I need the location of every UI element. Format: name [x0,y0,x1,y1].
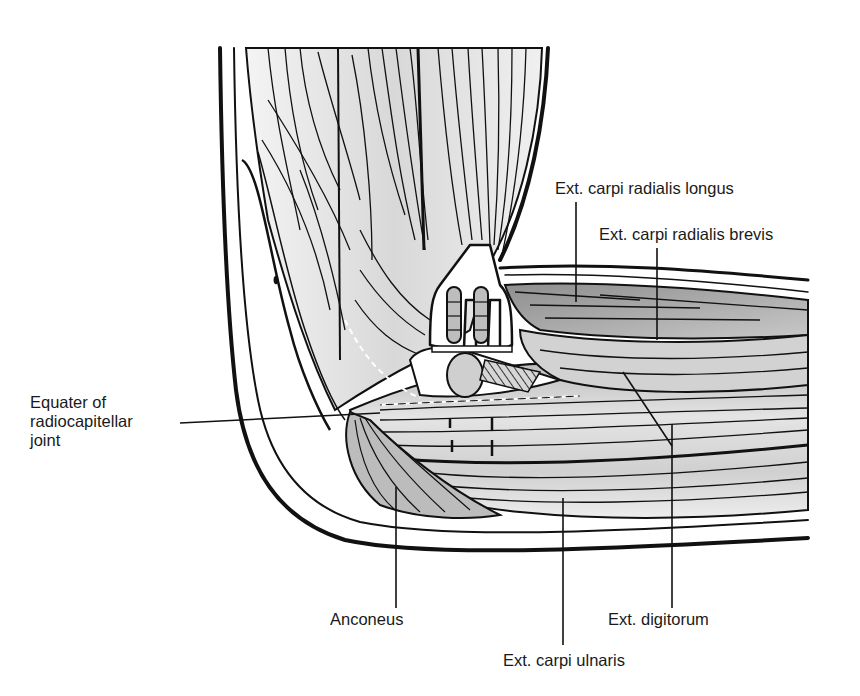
label-ext-carpi-radialis-brevis: Ext. carpi radialis brevis [599,225,773,244]
label-ext-carpi-radialis-longus: Ext. carpi radialis longus [555,179,734,198]
label-equator-radiocapitellar-joint: Equater of radiocapitellar joint [30,393,133,450]
label-anconeus: Anconeus [330,610,403,629]
elbow-illustration [0,0,860,696]
label-equator-line-3: joint [30,431,133,450]
upper-arm-muscles [246,48,542,410]
label-ext-digitorum: Ext. digitorum [608,610,709,629]
label-equator-line-1: Equater of [30,393,133,412]
label-equator-line-2: radiocapitellar [30,412,133,431]
label-ext-carpi-ulnaris: Ext. carpi ulnaris [503,651,625,670]
anatomy-figure: Ext. carpi radialis longus Ext. carpi ra… [0,0,860,696]
